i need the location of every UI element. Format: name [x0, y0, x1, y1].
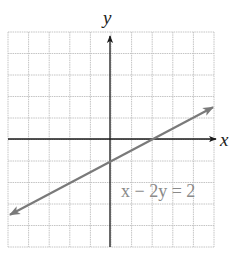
equation-label: x − 2y = 2 [121, 181, 195, 201]
coordinate-graph: x y x − 2y = 2 [0, 0, 236, 255]
x-axis-label: x [219, 129, 229, 150]
y-axis-label: y [101, 7, 112, 28]
